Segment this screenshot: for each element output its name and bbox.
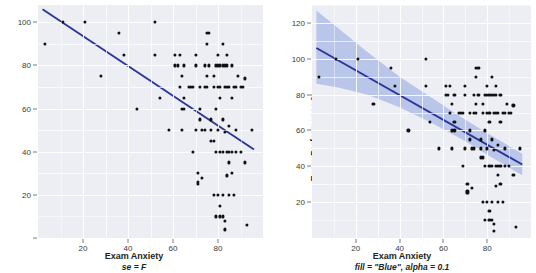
y-tick-mark [307,22,311,23]
y-tick-mark [33,65,37,66]
y-tick-mark [307,58,311,59]
y-tick-label: 20 [296,198,305,207]
y-tick-label: 60 [22,104,31,113]
x-tick-mark [355,239,356,243]
figure-container: Exam Performance % 20406080100 20406080 … [0,0,536,273]
x-axis-label-right: Exam Anxiety [268,251,536,261]
plot-area-right [312,5,531,238]
panel-left: Exam Performance % 20406080100 20406080 … [0,0,268,273]
gridline-vertical [61,5,62,238]
y-tick-label: 120 [292,18,305,27]
gridline-vertical [83,5,84,238]
gridline-vertical [422,5,423,238]
x-axis-label-left: Exam Anxiety [0,251,268,261]
gridline-vertical [128,5,129,238]
y-tick-label: 40 [22,147,31,156]
gridline-vertical [509,5,510,238]
y-tick-mark [307,166,311,167]
gridline-vertical [106,5,107,238]
y-tick-label: 40 [296,162,305,171]
gridline-vertical [356,5,357,238]
gridline-vertical [173,5,174,238]
y-axis-ticks-right: 20406080100120 [286,0,312,273]
y-tick-label: 100 [18,18,31,27]
y-tick-mark [33,108,37,109]
gridline-vertical [218,5,219,238]
x-tick-mark [83,239,84,243]
gridline-vertical [400,5,401,238]
x-tick-mark [443,239,444,243]
y-tick-mark [33,238,37,239]
x-tick-mark [487,239,488,243]
y-axis-ticks-left: 20406080100 [12,0,38,273]
x-tick-mark [173,239,174,243]
gridline-vertical [241,5,242,238]
gridline-vertical [334,5,335,238]
y-tick-label: 80 [22,61,31,70]
y-tick-label: 80 [296,90,305,99]
caption-left: se = F [0,262,268,272]
y-tick-mark [33,194,37,195]
y-tick-mark [307,130,311,131]
y-tick-mark [33,151,37,152]
y-tick-label: 100 [292,54,305,63]
gridline-vertical [151,5,152,238]
caption-right: fill = "Blue", alpha = 0.1 [268,262,536,272]
x-tick-mark [128,239,129,243]
x-tick-mark [218,239,219,243]
gridline-vertical [465,5,466,238]
y-tick-mark [307,202,311,203]
plot-area-left [38,5,263,238]
gridline-vertical [378,5,379,238]
regression-line [316,48,522,165]
y-tick-label: 20 [22,190,31,199]
regression-line [43,9,255,149]
x-tick-mark [399,239,400,243]
y-tick-label: 60 [296,126,305,135]
panel-right: Exam Performance % 20406080100120 204060… [268,0,536,273]
y-tick-mark [307,94,311,95]
gridline-vertical [443,5,444,238]
gridline-vertical [196,5,197,238]
y-tick-mark [33,22,37,23]
